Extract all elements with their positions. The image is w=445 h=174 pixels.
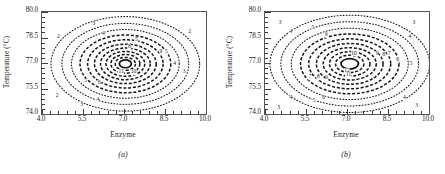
- y-tick-label: 78.5: [249, 33, 261, 40]
- x-tick-label: 8.5: [383, 116, 392, 123]
- x-tick-label: 4.0: [37, 116, 46, 123]
- contour-label: 4: [289, 95, 292, 101]
- y-axis-title-b: Temperature (°C): [224, 0, 236, 124]
- contour-label: 8: [317, 75, 320, 81]
- contour-line-level-7: [309, 39, 391, 89]
- x-tick-label: 10.0: [199, 116, 211, 123]
- contour-label: 6: [396, 58, 399, 64]
- x-tick-labels-a: 4.05.57.08.510.0: [41, 116, 205, 127]
- contour-line-level-8: [100, 48, 150, 80]
- y-tick-label: 80.0: [26, 7, 38, 14]
- contour-line-level-9: [106, 51, 145, 76]
- contour-label: 2: [188, 29, 191, 35]
- y-tick-label: 75.5: [249, 84, 261, 91]
- panel-caption-a: (a): [41, 150, 205, 159]
- panel-a: Temperature (°C) 74.075.577.078.580.0 23…: [0, 0, 222, 174]
- contour-label: 4: [408, 34, 411, 40]
- contour-label: 2: [57, 34, 60, 40]
- contour-svg: [42, 12, 206, 114]
- plot-area-b: 34563456798101211789654343: [264, 11, 430, 115]
- contour-label: 6: [325, 32, 328, 38]
- contour-label: 9: [375, 51, 378, 57]
- contour-label: 11: [118, 70, 124, 76]
- x-axis-title-b: Enzyme: [264, 130, 428, 139]
- contour-label: 4: [102, 31, 105, 37]
- contour-label: 8: [128, 44, 131, 50]
- contour-label: 5: [311, 25, 314, 31]
- contour-label: 7: [308, 75, 311, 81]
- contour-label: 5: [312, 98, 315, 104]
- contour-label: 4: [96, 97, 99, 103]
- contour-line-level-2: [51, 17, 200, 112]
- x-tick-label: 4.0: [260, 116, 269, 123]
- y-tick-label: 80.0: [249, 7, 261, 14]
- x-tick-labels-b: 4.05.57.08.510.0: [264, 116, 428, 127]
- x-tick-label: 10.0: [422, 116, 434, 123]
- contour-label: 5: [135, 37, 138, 43]
- contour-label: 5: [410, 61, 413, 67]
- x-tick-label: 7.0: [119, 116, 128, 123]
- contour-line-level-12: [119, 60, 131, 68]
- contour-label: 2: [55, 93, 58, 99]
- contour-label: 10: [351, 51, 357, 57]
- contour-label: 3: [92, 21, 95, 27]
- x-axis-title-a: Enzyme: [41, 130, 205, 139]
- y-axis-title-a: Temperature (°C): [1, 0, 13, 124]
- y-tick-labels-b: 74.075.577.078.580.0: [236, 0, 261, 124]
- contour-label: 4: [289, 29, 292, 35]
- x-tick-label: 7.0: [342, 116, 351, 123]
- contour-line-level-6: [301, 34, 399, 94]
- contour-label: 4: [403, 95, 406, 101]
- contour-label: 3: [182, 70, 185, 76]
- x-tick-label: 5.5: [301, 116, 310, 123]
- contour-label: 10: [130, 70, 136, 76]
- contour-label: 3: [277, 105, 280, 111]
- contour-label: 7: [388, 51, 391, 57]
- y-tick-label: 77.0: [249, 58, 261, 65]
- contour-label: 4: [173, 61, 176, 67]
- panel-caption-b: (b): [264, 150, 428, 159]
- y-tick-labels-a: 74.075.577.078.580.0: [13, 0, 38, 124]
- x-tick-label: 5.5: [78, 116, 87, 123]
- panel-b: Temperature (°C) 74.075.577.078.580.0 34…: [223, 0, 445, 174]
- contour-label: 3: [80, 102, 83, 108]
- y-tick-label: 75.5: [26, 84, 38, 91]
- contour-label: 3: [412, 20, 415, 26]
- contour-label: 3: [278, 20, 281, 26]
- contour-label: 9: [159, 49, 162, 55]
- contour-label: 3: [415, 103, 418, 109]
- contour-label: 8: [382, 53, 385, 59]
- contour-set-a: 2323445234568951110: [42, 12, 206, 114]
- plot-area-a: 2323445234568951110: [41, 11, 207, 115]
- x-tick-label: 8.5: [160, 116, 169, 123]
- y-tick-label: 77.0: [26, 58, 38, 65]
- contour-line-level-7: [94, 44, 156, 83]
- contour-label: 9: [325, 76, 328, 82]
- figure-contour-plots: Temperature (°C) 74.075.577.078.580.0 23…: [0, 0, 445, 174]
- contour-set-b: 34563456798101211789654343: [265, 12, 429, 114]
- contour-label: 11: [345, 72, 351, 78]
- y-tick-label: 78.5: [26, 33, 38, 40]
- contour-label: 5: [84, 78, 87, 84]
- contour-label: 5: [165, 49, 168, 55]
- contour-label: 6: [98, 80, 101, 86]
- contour-label: 6: [322, 95, 325, 101]
